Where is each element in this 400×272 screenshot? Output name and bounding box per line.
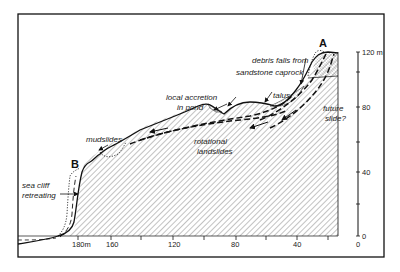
future-label-1: future: [323, 104, 344, 113]
seacliff-label-2: retreating: [22, 191, 56, 200]
debris-label-1: debris falls from: [252, 56, 309, 65]
accretion-arrow: [214, 104, 227, 110]
x-tick-180: 180m: [72, 240, 91, 249]
accretion-label-1: local accretion: [166, 93, 218, 102]
y-tick-0: 0: [362, 232, 366, 241]
mudslides-label: mudslides: [86, 135, 122, 144]
x-tick-160: 160: [106, 240, 119, 249]
cross-section-diagram: A B debris falls from sandstone caprock …: [0, 0, 400, 272]
y-tick-120: 120 m: [362, 48, 383, 57]
former-cliff-dashed: [60, 176, 76, 237]
point-a-label: A: [319, 37, 327, 49]
slope-arrow: [228, 97, 236, 106]
future-label-2: slide?: [325, 114, 346, 123]
x-tick-40: 40: [293, 240, 301, 249]
x-tick-80: 80: [231, 240, 239, 249]
accretion-label-2: in pond: [177, 103, 204, 112]
x-tick-0: 0: [356, 240, 360, 249]
rotational-label-1: rotational: [194, 137, 227, 146]
talus-label: talus: [273, 91, 290, 100]
y-tick-80: 80: [362, 103, 370, 112]
rotational-label-2: landslides: [197, 147, 233, 156]
x-tick-120: 120: [168, 240, 181, 249]
point-b-label: B: [71, 158, 79, 170]
talus-arrow: [265, 92, 272, 102]
y-tick-40: 40: [362, 168, 370, 177]
seacliff-label-1: sea cliff: [22, 181, 50, 190]
debris-label-2: sandstone caprock: [236, 68, 304, 77]
